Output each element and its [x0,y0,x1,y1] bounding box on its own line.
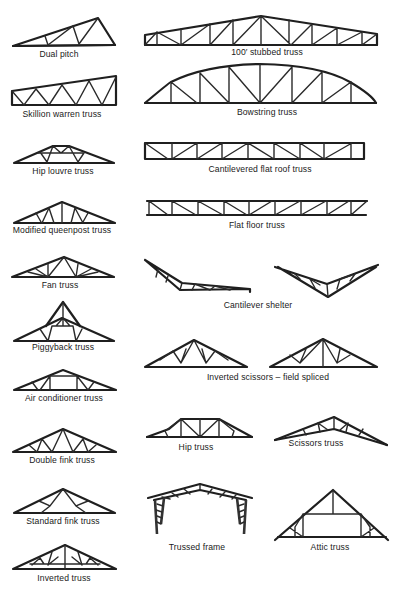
label-bowstring: Bowstring truss [237,107,297,117]
label-piggyback: Piggyback truss [32,342,94,352]
label-double-fink: Double fink truss [29,455,95,465]
truss-dual-pitch: Dual pitch [0,0,140,60]
truss-piggyback: Piggyback truss [0,300,140,355]
standard-fink-drawing [0,485,140,535]
truss-air-conditioner: Air conditioner truss [0,368,140,408]
label-air-conditioner: Air conditioner truss [25,393,103,403]
hip-louvre-drawing [0,140,140,190]
label-flat-floor: Flat floor truss [229,220,285,230]
label-fan: Fan truss [42,280,79,290]
truss-cantilevered-flat-roof: Cantilevered flat roof truss [140,140,410,190]
truss-hip: Hip truss [140,415,270,460]
truss-inverted-scissors: Inverted scissors – field spliced [140,335,410,390]
label-cantilever-shelter: Cantilever shelter [224,300,293,310]
truss-attic: Attic truss [270,480,410,560]
truss-double-fink: Double fink truss [0,425,140,475]
truss-skillion-warren: Skillion warren truss [0,70,140,120]
truss-cantilever-shelter: Cantilever shelter [140,255,410,315]
label-standard-fink: Standard fink truss [26,516,100,526]
truss-inverted: Inverted truss [0,540,140,590]
truss-100-stubbed: 100′ stubbed truss [140,0,410,60]
label-skillion-warren: Skillion warren truss [23,109,102,119]
label-inverted-scissors: Inverted scissors – field spliced [207,372,329,382]
label-attic: Attic truss [311,542,350,552]
label-hip: Hip truss [179,442,214,452]
truss-trussed-frame: Trussed frame [140,480,270,560]
label-dual-pitch: Dual pitch [39,49,78,59]
label-scissors: Scissors truss [289,438,344,448]
truss-flat-floor: Flat floor truss [140,200,410,240]
truss-fan: Fan truss [0,255,140,305]
truss-scissors: Scissors truss [270,415,410,460]
hip-drawing [140,415,270,460]
truss-standard-fink: Standard fink truss [0,485,140,535]
label-modified-queenpost: Modified queenpost truss [13,225,111,235]
truss-bowstring: Bowstring truss [140,60,410,120]
double-fink-drawing [0,425,140,475]
modified-queenpost-drawing [0,193,145,243]
label-100-stubbed: 100′ stubbed truss [231,47,303,57]
label-inverted: Inverted truss [37,573,90,583]
label-trussed-frame: Trussed frame [169,542,225,552]
label-cantilevered-flat-roof: Cantilevered flat roof truss [208,164,311,174]
truss-hip-louvre: Hip louvre truss [0,140,140,190]
truss-modified-queenpost: Modified queenpost truss [0,193,145,243]
label-hip-louvre: Hip louvre truss [32,166,93,176]
